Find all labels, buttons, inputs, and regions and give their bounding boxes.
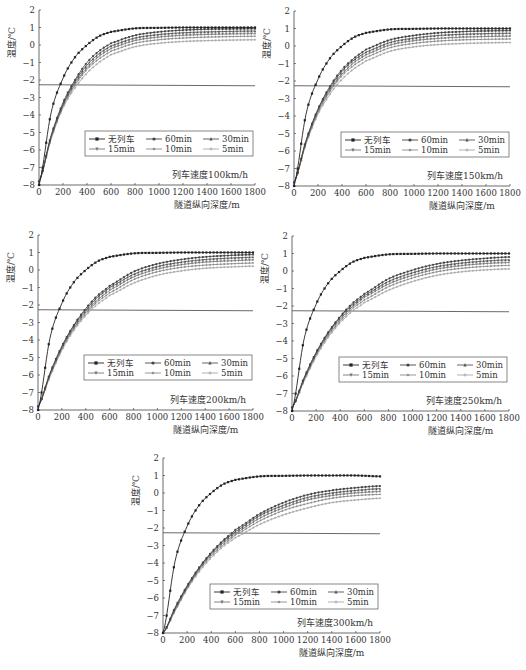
x-tick-label: 800 xyxy=(125,412,141,422)
legend-entry: 无列车 xyxy=(108,134,135,144)
x-tick-label: 600 xyxy=(358,188,374,198)
y-tick-label: −6 xyxy=(275,371,288,381)
y-tick-label: −8 xyxy=(21,405,34,415)
x-tick-label: 800 xyxy=(127,187,143,197)
legend-entry: 10min xyxy=(419,370,447,380)
legend-entry: 30min xyxy=(221,358,249,368)
x-tick-label: 600 xyxy=(356,413,372,423)
x-tick-label: 400 xyxy=(78,412,94,422)
speed-label: 列车速度200km/h xyxy=(170,394,246,405)
legend-entry: 5min xyxy=(478,145,500,155)
legend-entry: 5min xyxy=(222,144,244,154)
legend-entry: 30min xyxy=(222,134,250,144)
series-30min xyxy=(162,487,381,634)
x-tick-label: 1400 xyxy=(194,412,216,422)
y-tick-label: −7 xyxy=(275,389,288,399)
threshold-line xyxy=(294,86,510,87)
series-10min xyxy=(162,493,381,634)
y-tick-label: −3 xyxy=(21,318,34,328)
chart-panel-3: −8−7−6−5−4−3−2−1012020040060080010001200… xyxy=(5,230,264,435)
legend-entry: 30min xyxy=(347,587,375,597)
series-60min xyxy=(162,485,381,634)
legend-entry: 60min xyxy=(419,360,447,370)
x-tick-label: 400 xyxy=(334,188,350,198)
y-tick-label: −3 xyxy=(277,94,290,104)
x-tick-label: 1800 xyxy=(499,188,521,198)
series-30min xyxy=(293,32,511,184)
legend-entry: 无列车 xyxy=(364,135,391,145)
legend-entry: 无列车 xyxy=(107,358,134,368)
y-tick-label: 1 xyxy=(30,23,35,33)
x-tick-label: 0 xyxy=(35,412,40,422)
series-60min xyxy=(293,30,511,184)
x-tick-label: 1400 xyxy=(196,187,218,197)
series-5min xyxy=(38,39,256,183)
y-tick-label: −3 xyxy=(22,93,35,103)
x-tick-label: 600 xyxy=(102,412,118,422)
x-axis-title: 隧道纵向深度/m xyxy=(173,424,239,435)
y-tick-label: −8 xyxy=(146,628,159,638)
series-5min xyxy=(162,497,381,634)
y-tick-label: 0 xyxy=(285,41,290,51)
x-tick-label: 200 xyxy=(308,413,324,423)
y-tick-label: 1 xyxy=(29,248,34,258)
legend-entry: 10min xyxy=(165,144,193,154)
x-tick-label: 0 xyxy=(289,413,294,423)
threshold-line xyxy=(38,310,253,311)
y-tick-label: 2 xyxy=(29,230,34,240)
x-tick-label: 1600 xyxy=(475,188,497,198)
series-15min xyxy=(293,35,511,184)
x-tick-label: 800 xyxy=(251,635,267,645)
legend-entry: 60min xyxy=(421,135,449,145)
legend: 无列车60min30min15min10min5min xyxy=(85,131,253,156)
x-tick-label: 400 xyxy=(203,635,219,645)
y-tick-label: 1 xyxy=(285,24,290,34)
legend-entry: 15min xyxy=(362,370,390,380)
speed-label: 列车速度100km/h xyxy=(172,169,248,180)
series-15min xyxy=(38,33,256,183)
x-tick-label: 1200 xyxy=(297,635,319,645)
y-axis-title: 温度/℃ xyxy=(6,27,17,58)
y-tick-label: −8 xyxy=(22,180,35,190)
y-tick-label: −1 xyxy=(275,284,288,294)
threshold-line xyxy=(292,311,509,312)
chart-panel-2: −8−7−6−5−4−3−2−1012020040060080010001200… xyxy=(261,6,521,211)
x-tick-label: 1200 xyxy=(171,412,193,422)
x-tick-label: 200 xyxy=(310,188,326,198)
y-tick-label: −5 xyxy=(275,354,288,364)
legend-entry: 60min xyxy=(290,587,318,597)
y-tick-label: −8 xyxy=(275,406,288,416)
y-axis-title: 温度/℃ xyxy=(130,475,141,506)
y-tick-label: −2 xyxy=(22,75,35,85)
y-tick-label: 2 xyxy=(283,231,288,241)
x-tick-label: 400 xyxy=(332,413,348,423)
x-axis-title: 隧道纵向深度/m xyxy=(429,200,495,211)
y-tick-label: −7 xyxy=(277,164,290,174)
x-tick-label: 200 xyxy=(179,635,195,645)
chart-panel-4: −8−7−6−5−4−3−2−1012020040060080010001200… xyxy=(259,231,520,436)
y-axis-title: 温度/℃ xyxy=(261,28,272,59)
y-tick-label: −5 xyxy=(21,353,34,363)
x-tick-label: 1000 xyxy=(147,412,169,422)
y-tick-label: −5 xyxy=(22,128,35,138)
legend-entry: 15min xyxy=(108,144,136,154)
y-tick-label: −3 xyxy=(275,319,288,329)
y-tick-label: −2 xyxy=(275,301,288,311)
x-tick-label: 0 xyxy=(36,187,41,197)
series-30min xyxy=(38,30,256,183)
x-tick-label: 1600 xyxy=(474,413,496,423)
x-tick-label: 1000 xyxy=(402,413,424,423)
legend-entry: 60min xyxy=(164,358,192,368)
series-10min xyxy=(293,38,511,184)
legend-entry: 30min xyxy=(478,135,506,145)
y-tick-label: −4 xyxy=(22,110,35,120)
x-axis-title: 隧道纵向深度/m xyxy=(299,647,365,658)
x-tick-label: 400 xyxy=(79,187,95,197)
y-tick-label: −1 xyxy=(21,283,34,293)
legend-entry: 10min xyxy=(421,145,449,155)
legend-entry: 60min xyxy=(165,134,193,144)
y-tick-label: −6 xyxy=(21,370,34,380)
x-tick-label: 1400 xyxy=(450,413,472,423)
x-tick-label: 0 xyxy=(160,635,165,645)
y-tick-label: 1 xyxy=(283,249,288,259)
